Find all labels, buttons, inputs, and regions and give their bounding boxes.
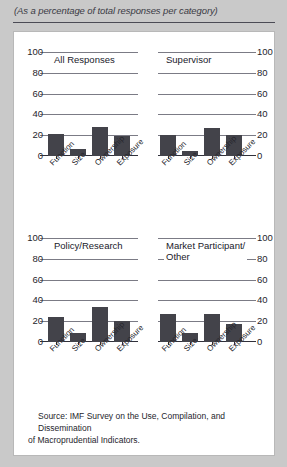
y-axis-tick-100: 100 — [257, 47, 273, 57]
panel-title-2: Policy/Research — [52, 240, 125, 251]
y-axis-tick-20: 20 — [32, 130, 43, 140]
x-axis-labels: FunctionSizeOwnershipExposure — [46, 342, 132, 390]
y-axis-tick-80: 80 — [32, 254, 43, 264]
y-axis-tick-20: 20 — [32, 316, 43, 326]
x-axis-labels: FunctionSizeOwnershipExposure — [158, 342, 244, 390]
chart-panel-3: 100806040200FunctionSizeOwnershipExposur… — [145, 224, 276, 404]
y-axis-tick-60: 60 — [32, 275, 43, 285]
panel-title-3: Market Participant/ Other — [164, 240, 247, 262]
bar-slot-function — [46, 238, 65, 342]
panel-title-1: Supervisor — [164, 54, 213, 65]
y-axis-tick-80: 80 — [32, 68, 43, 78]
plot-area: 100806040200FunctionSizeOwnershipExposur… — [46, 52, 132, 156]
bar-slot-ownership — [203, 52, 222, 156]
y-axis-tick-20: 20 — [257, 130, 268, 140]
figure-subtitle: (As a percentage of total responses per … — [14, 5, 274, 16]
chart-panel-0: 100806040200FunctionSizeOwnershipExposur… — [14, 38, 145, 218]
x-axis-labels: FunctionSizeOwnershipExposure — [46, 156, 132, 204]
y-axis-tick-80: 80 — [257, 254, 268, 264]
y-axis-tick-80: 80 — [257, 68, 268, 78]
y-axis-tick-40: 40 — [257, 109, 268, 119]
y-axis-tick-40: 40 — [257, 295, 268, 305]
y-axis-tick-0: 0 — [257, 337, 262, 347]
y-axis-tick-100: 100 — [27, 233, 43, 243]
source-line-1: Source: IMF Survey on the Use, Compilati… — [28, 410, 266, 434]
bar-slot-ownership — [91, 238, 110, 342]
chart-panel-grid: 100806040200FunctionSizeOwnershipExposur… — [14, 38, 276, 398]
source-line-2: of Macroprudential Indicators. — [28, 434, 266, 446]
panel-title-0: All Responses — [52, 54, 117, 65]
chart-card: 100806040200FunctionSizeOwnershipExposur… — [13, 31, 275, 456]
figure-root: (As a percentage of total responses per … — [0, 0, 287, 467]
y-axis-tick-60: 60 — [32, 89, 43, 99]
chart-panel-2: 100806040200FunctionSizeOwnershipExposur… — [14, 224, 145, 404]
y-axis-tick-60: 60 — [257, 89, 268, 99]
bar-slot-function — [158, 52, 177, 156]
chart-panel-1: 100806040200FunctionSizeOwnershipExposur… — [145, 38, 276, 218]
header-divider — [13, 22, 275, 23]
bar-slot-function — [46, 52, 65, 156]
bar-slot-ownership — [91, 52, 110, 156]
y-axis-tick-40: 40 — [32, 109, 43, 119]
plot-area: 100806040200FunctionSizeOwnershipExposur… — [158, 52, 244, 156]
y-axis-tick-100: 100 — [257, 233, 273, 243]
x-axis-labels: FunctionSizeOwnershipExposure — [158, 156, 244, 204]
y-axis-tick-0: 0 — [257, 151, 262, 161]
y-axis-tick-40: 40 — [32, 295, 43, 305]
source-note: Source: IMF Survey on the Use, Compilati… — [28, 410, 266, 446]
y-axis-tick-20: 20 — [257, 316, 268, 326]
y-axis-tick-60: 60 — [257, 275, 268, 285]
y-axis-tick-100: 100 — [27, 47, 43, 57]
plot-area: 100806040200FunctionSizeOwnershipExposur… — [46, 238, 132, 342]
